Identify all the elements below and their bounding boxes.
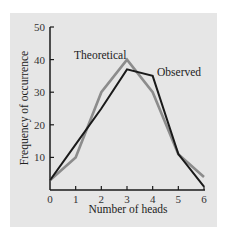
y-tick-label: 10 — [34, 151, 46, 163]
theoretical-label: Theoretical — [74, 49, 126, 61]
x-tick-label: 5 — [176, 193, 182, 205]
observed-line — [50, 69, 204, 186]
y-axis-title: Frequency of occurrence — [18, 51, 31, 165]
y-tick-label: 30 — [34, 86, 46, 98]
y-tick-label: 50 — [34, 21, 46, 33]
y-tick-label: 40 — [34, 54, 46, 66]
y-tick-label: 20 — [34, 119, 46, 131]
line-chart: 1020304050 0123456 Number of heads Frequ… — [0, 0, 227, 247]
x-tick-label: 6 — [201, 193, 207, 205]
observed-label: Observed — [157, 66, 201, 78]
x-tick-label: 0 — [47, 193, 53, 205]
series-lines — [50, 60, 204, 187]
x-axis-title: Number of heads — [88, 203, 168, 215]
x-tick-label: 1 — [73, 193, 79, 205]
y-ticks: 1020304050 — [34, 21, 54, 163]
